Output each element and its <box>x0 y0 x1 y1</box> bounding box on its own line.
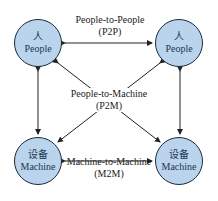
node-en-label: People <box>165 43 192 55</box>
p2p-label-line2: (P2P) <box>72 26 148 38</box>
node-en-label: People <box>24 43 51 55</box>
node-zh-label: 设备 <box>28 149 48 161</box>
node-en-label: Machine <box>162 161 197 173</box>
m2m-label-line1: Machine-to-Machine <box>64 156 154 168</box>
node-people-top-right: 人 People <box>155 19 203 67</box>
node-machine-bottom-left: 设备 Machine <box>14 137 62 185</box>
node-machine-bottom-right: 设备 Machine <box>155 137 203 185</box>
node-people-top-left: 人 People <box>14 19 62 67</box>
p2p-label: People-to-People (P2P) <box>72 14 148 38</box>
p2m-label-line1: People-to-Machine <box>62 88 156 100</box>
node-zh-label: 人 <box>174 31 184 43</box>
p2p-label-line1: People-to-People <box>72 14 148 26</box>
p2m-label: People-to-Machine (P2M) <box>62 88 156 112</box>
m2m-label-line2: (M2M) <box>64 168 154 180</box>
p2m-label-line2: (P2M) <box>62 100 156 112</box>
m2m-label: Machine-to-Machine (M2M) <box>64 164 154 180</box>
node-zh-label: 人 <box>33 31 43 43</box>
node-en-label: Machine <box>21 161 56 173</box>
node-zh-label: 设备 <box>169 149 189 161</box>
